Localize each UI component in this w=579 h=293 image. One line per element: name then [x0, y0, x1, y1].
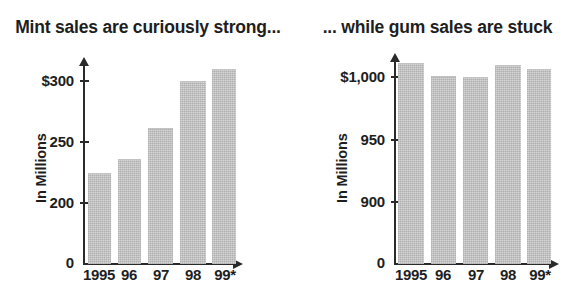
plot-area-left: $300 250 200 0 1995 96 97 98 99* — [0, 0, 290, 293]
x-tick-label-96: 96 — [427, 266, 459, 283]
y-tick-mark-250 — [80, 141, 89, 143]
y-axis-arrow-icon-right — [390, 53, 400, 62]
x-tick-label-98: 98 — [177, 266, 209, 283]
y-tick-label-900: 900 — [290, 193, 385, 210]
bar-97 — [148, 128, 173, 264]
x-tick-label-96: 96 — [113, 266, 145, 283]
y-tick-label-200: 200 — [0, 194, 74, 211]
x-tick-label-98: 98 — [492, 266, 524, 283]
x-tick-label-99: 99* — [522, 266, 558, 283]
y-tick-label-300: $300 — [0, 72, 74, 89]
x-tick-label-97: 97 — [145, 266, 177, 283]
chart-page: Mint sales are curiously strong... In Mi… — [0, 0, 579, 293]
y-tick-label-950: 950 — [290, 131, 385, 148]
bar-99 — [527, 69, 551, 264]
bar-1995 — [88, 173, 111, 264]
x-tick-label-99: 99* — [207, 266, 243, 283]
bar-96 — [118, 159, 141, 264]
y-axis-line-right — [394, 62, 396, 264]
chart-panel-gum-sales: ... while gum sales are stuck In Million… — [290, 0, 579, 293]
y-tick-label-250: 250 — [0, 133, 74, 150]
bar-96 — [431, 76, 456, 264]
plot-area-right: $1,000 950 900 0 1995 96 97 98 99* — [290, 0, 579, 293]
x-tick-label-97: 97 — [460, 266, 492, 283]
bar-99 — [212, 69, 236, 264]
y-axis-arrow-icon-left — [79, 57, 89, 66]
y-tick-label-1000: $1,000 — [290, 68, 385, 85]
y-tick-label-0-right: 0 — [290, 254, 385, 271]
y-tick-label-0: 0 — [0, 254, 74, 271]
chart-panel-mint-sales: Mint sales are curiously strong... In Mi… — [0, 0, 290, 293]
bar-1995 — [398, 63, 424, 264]
bar-98 — [180, 81, 206, 264]
y-tick-mark-300 — [80, 80, 89, 82]
bar-98 — [495, 65, 521, 264]
y-axis-line-left — [83, 66, 85, 264]
bar-97 — [463, 77, 488, 264]
